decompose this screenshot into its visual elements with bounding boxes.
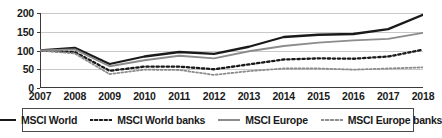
legend-label: MSCI World: [21, 114, 77, 126]
x-tick-label-2015: 2015: [307, 89, 330, 103]
x-tick-label-2008: 2008: [64, 89, 87, 103]
legend-item-msci-europe-banks[interactable]: MSCI Europe banks: [321, 114, 442, 126]
x-tick-label-2013: 2013: [238, 89, 261, 103]
y-tick-label-200: 200: [17, 8, 34, 18]
y-tick-label-100: 100: [17, 46, 34, 56]
legend-label: MSCI Europe banks: [348, 114, 442, 126]
legend-label: MSCI Europe: [245, 114, 308, 126]
x-tick-label-2010: 2010: [133, 89, 156, 103]
chart-legend: MSCI WorldMSCI World banksMSCI EuropeMSC…: [22, 108, 414, 132]
x-tick-label-2009: 2009: [98, 89, 121, 103]
x-tick-label-2012: 2012: [203, 89, 226, 103]
y-tick-label-50: 50: [23, 64, 34, 74]
x-tick-label-2011: 2011: [168, 89, 190, 103]
legend-item-msci-europe[interactable]: MSCI Europe: [218, 114, 308, 126]
legend-swatch-dotted-icon: [90, 116, 112, 124]
x-tick-label-2017: 2017: [377, 89, 400, 103]
x-tick-label-2014: 2014: [272, 89, 295, 103]
x-tick-label-2007: 2007: [29, 89, 52, 103]
x-tick-label-2018: 2018: [412, 89, 435, 103]
legend-item-msci-world-banks[interactable]: MSCI World banks: [90, 114, 205, 126]
legend-swatch-solid-icon: [0, 116, 16, 124]
x-tick-label-2016: 2016: [342, 89, 365, 103]
y-tick-label-150: 150: [17, 27, 34, 37]
x-axis: 2007200820092010201120122013201420152016…: [40, 89, 423, 105]
legend-swatch-solid-icon: [218, 116, 240, 124]
series-layer: [40, 13, 423, 88]
legend-item-msci-world[interactable]: MSCI World: [0, 114, 77, 126]
legend-label: MSCI World banks: [117, 114, 205, 126]
y-axis: 050100150200: [0, 0, 38, 100]
legend-swatch-dotted-icon: [321, 116, 343, 124]
